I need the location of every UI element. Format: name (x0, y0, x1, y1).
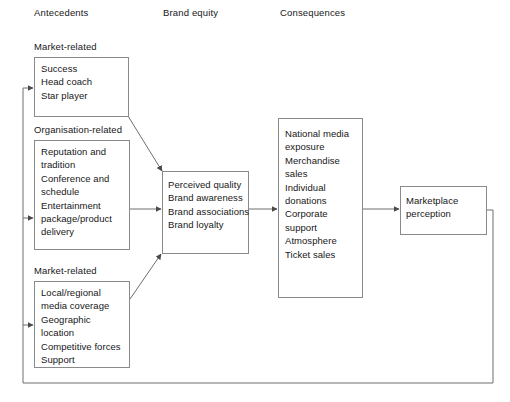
list-item: Brand loyalty (168, 218, 252, 231)
list-item: Merchandise sales (285, 154, 363, 181)
column-header-brand-equity: Brand equity (163, 7, 218, 18)
column-header-antecedents: Antecedents (34, 7, 88, 18)
list-item: Conference and schedule (41, 172, 129, 199)
list-item: Entertainment package/product delivery (41, 199, 129, 239)
list-item: Geographic location (41, 313, 131, 340)
node-list-organisation-related: Reputation and tradition Conference and … (41, 145, 129, 239)
list-item: Star player (41, 89, 127, 102)
list-item: Marketplace perception (406, 194, 486, 221)
node-list-marketplace-perception: Marketplace perception (406, 194, 486, 221)
group-label-market-related-bottom: Market-related (34, 265, 97, 276)
list-item: Head coach (41, 75, 127, 88)
list-item: Ticket sales (285, 248, 363, 261)
edge-market-bottom-to-brand-equity (130, 254, 161, 299)
node-list-brand-equity: Perceived quality Brand awareness Brand … (168, 178, 252, 232)
list-item: Perceived quality (168, 178, 252, 191)
diagram-canvas: Antecedents Brand equity Consequences Ma… (0, 0, 510, 402)
list-item: Competitive forces (41, 340, 131, 353)
column-header-consequences: Consequences (280, 7, 345, 18)
list-item: Local/regional media coverage (41, 286, 131, 313)
list-item: National media exposure (285, 127, 363, 154)
list-item: Corporate support (285, 207, 363, 234)
node-list-consequences: National media exposure Merchandise sale… (285, 127, 363, 261)
list-item: Reputation and tradition (41, 145, 129, 172)
node-list-market-related-bottom: Local/regional media coverage Geographic… (41, 286, 131, 366)
node-list-market-related-top: Success Head coach Star player (41, 62, 127, 102)
list-item: Brand associations (168, 205, 252, 218)
edge-market-top-to-brand-equity (128, 116, 162, 171)
list-item: Success (41, 62, 127, 75)
group-label-organisation-related: Organisation-related (34, 124, 122, 135)
list-item: Atmosphere (285, 234, 363, 247)
list-item: Individual donations (285, 181, 363, 208)
group-label-market-related-top: Market-related (34, 41, 97, 52)
list-item: Support (41, 353, 131, 366)
list-item: Brand awareness (168, 191, 252, 204)
